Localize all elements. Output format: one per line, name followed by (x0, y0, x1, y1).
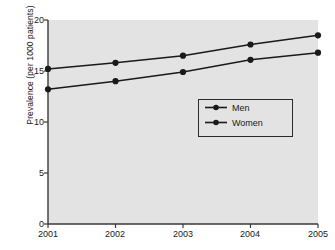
point-men-2001 (45, 66, 51, 72)
point-men-2002 (112, 60, 118, 66)
x-tick-label-2002: 2002 (92, 229, 138, 239)
legend-label-women: Women (232, 118, 263, 128)
y-tick-label-10: 10 (18, 117, 44, 127)
y-tick-label-15: 15 (18, 66, 44, 76)
x-tick-label-2001: 2001 (25, 229, 71, 239)
x-tick-label-2005: 2005 (295, 229, 335, 239)
chart-legend: Men Women (198, 99, 293, 137)
point-women-2004 (247, 57, 253, 63)
legend-item-women: Women (199, 115, 292, 130)
point-men-2003 (180, 53, 186, 59)
x-tick-label-2004: 2004 (227, 229, 273, 239)
legend-marker-men-icon (204, 102, 228, 113)
point-women-2005 (315, 50, 321, 56)
legend-marker-women-icon (204, 117, 228, 128)
legend-item-men: Men (199, 100, 292, 115)
y-tick-label-20: 20 (18, 15, 44, 25)
y-tick-label-5: 5 (18, 168, 44, 178)
point-women-2001 (45, 86, 51, 92)
x-tick-label-2003: 2003 (160, 229, 206, 239)
y-tick-label-0: 0 (18, 219, 44, 229)
point-men-2004 (247, 41, 253, 47)
point-men-2005 (315, 32, 321, 38)
chart-figure: Prevalence (per 1000 patients) 20 15 10 … (0, 0, 335, 250)
point-women-2002 (112, 78, 118, 84)
legend-label-men: Men (232, 103, 250, 113)
point-women-2003 (180, 69, 186, 75)
